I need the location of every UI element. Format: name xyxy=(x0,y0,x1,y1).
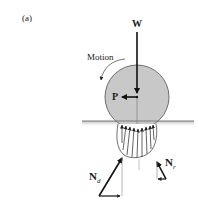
motion-label: Motion xyxy=(87,53,114,62)
push-label: P xyxy=(112,92,118,102)
panel-label: (a) xyxy=(22,14,32,23)
normal-r-label: Nr xyxy=(165,157,176,171)
wheel-center xyxy=(136,96,138,98)
normal-d-label: Nd xyxy=(89,171,100,185)
weight-label: W xyxy=(132,19,142,29)
normal-d-triangle xyxy=(99,158,122,196)
